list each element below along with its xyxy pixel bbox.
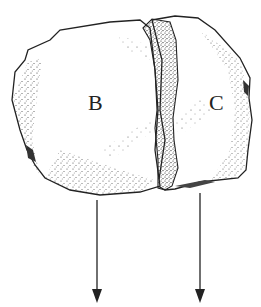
- diagram-canvas: B C: [0, 0, 261, 307]
- arrow-down-b-icon: [92, 200, 102, 303]
- arrow-down-c-icon: [195, 193, 205, 303]
- block-b: [12, 20, 160, 195]
- label-b: B: [88, 90, 103, 115]
- label-c: C: [209, 90, 224, 115]
